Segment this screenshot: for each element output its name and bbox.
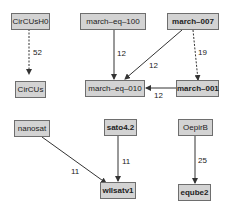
edge-label-march007-march001: 19 [198,48,207,57]
node-sato4-2[interactable]: sato4.2 [104,119,137,136]
node-oepirb[interactable]: OepirB [178,119,213,136]
node-march-eq-100[interactable]: march–eq–100 [80,13,146,30]
node-circush0[interactable]: CirCUsH0 [11,13,50,30]
edge-nanosat-wllsatv1 [42,137,106,183]
node-eqube2[interactable]: eqube2 [178,184,211,201]
node-circus[interactable]: CirCUs [15,81,46,98]
node-march-001[interactable]: march–001 [176,80,219,97]
edge-label-marcheq100-marcheq010: 12 [117,49,126,58]
node-march-007[interactable]: march–007 [167,13,219,30]
node-march-eq-010[interactable]: march–eq–010 [85,80,145,97]
edge-label-march001-marcheq010: 12 [154,91,163,100]
edge-label-sato42-wllsatv1: 11 [122,157,130,166]
edge-march007-marcheq010 [125,30,182,79]
graph-canvas: CirCUsH0 CirCUs march–eq–100 march–007 m… [0,0,233,214]
edge-label-march007-marcheq010: 12 [149,61,158,70]
edge-label-oepirb-eqube2: 25 [198,156,207,165]
edge-label-circush0-circus: 52 [33,48,42,57]
node-nanosat[interactable]: nanosat [14,120,50,137]
edge-label-nanosat-wllsatv1: 11 [71,167,79,176]
node-wllsatv1[interactable]: wllsatv1 [100,182,136,199]
